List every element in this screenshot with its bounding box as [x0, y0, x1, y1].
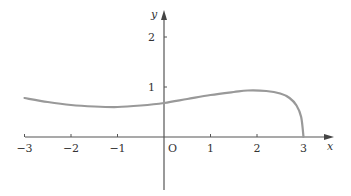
origin-label: O	[168, 142, 177, 155]
x-tick-label: 3	[300, 142, 307, 155]
x-tick-label: −1	[109, 142, 125, 155]
x-tick-label: 2	[254, 142, 261, 155]
y-axis-label: y	[150, 8, 158, 21]
y-axis-arrow-icon	[161, 10, 167, 20]
y-tick-label: 2	[148, 31, 155, 44]
y-tick-label: 1	[148, 81, 155, 94]
x-tick-label: 1	[207, 142, 214, 155]
chart: −3−2−1123 12 x y O	[0, 0, 351, 196]
x-tick-label: −2	[63, 142, 79, 155]
x-tick-label: −3	[16, 142, 32, 155]
x-axis-label: x	[327, 140, 334, 153]
